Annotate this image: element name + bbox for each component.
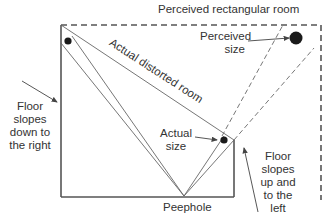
- ames-room-diagram: Perceived rectangular room Actual distor…: [0, 0, 332, 221]
- right-floor-line4: to the: [253, 189, 303, 202]
- perceived-size-label: Perceived size: [200, 30, 248, 56]
- actual-size-line2: size: [156, 140, 196, 153]
- right-floor-slope-label: Floor slopes up and to the left: [253, 150, 303, 215]
- peephole-label: Peephole: [163, 201, 212, 214]
- actual-size-label: Actual size: [156, 127, 196, 153]
- right-floor-line3: up and: [253, 176, 303, 189]
- left-floor-line4: the right: [2, 139, 58, 152]
- actual-size-line1: Actual: [156, 127, 196, 140]
- left-floor-slope-label: Floor slopes down to the right: [2, 100, 58, 152]
- perceived-size-line2: size: [200, 43, 248, 56]
- right-floor-line1: Floor: [253, 150, 303, 163]
- left-floor-line3: down to: [2, 126, 58, 139]
- perceived-size-dot: [290, 32, 303, 45]
- left-floor-line1: Floor: [2, 100, 58, 113]
- right-floor-line5: left: [253, 202, 303, 215]
- perceived-room-label: Perceived rectangular room: [158, 3, 299, 16]
- far-corner-person-dot: [64, 37, 71, 44]
- perceived-size-line1: Perceived: [200, 30, 248, 43]
- actual-size-dot: [220, 136, 227, 143]
- left-floor-line2: slopes: [2, 113, 58, 126]
- right-floor-line2: slopes: [253, 163, 303, 176]
